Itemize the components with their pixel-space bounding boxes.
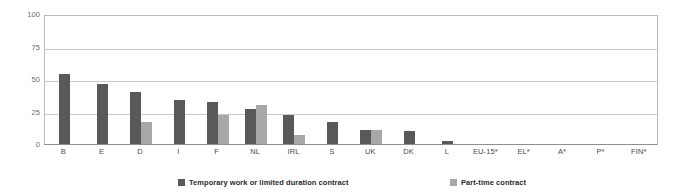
bar — [207, 102, 218, 144]
x-tick-label: FIN* — [631, 147, 646, 157]
chart-legend: Temporary work or limited duration contr… — [0, 178, 684, 192]
x-tick-label: D — [137, 147, 143, 157]
bar-group — [352, 16, 390, 144]
bar-group — [160, 16, 198, 144]
bar-group — [199, 16, 237, 144]
bar — [59, 74, 70, 144]
y-tick-label: 100 — [14, 11, 40, 19]
x-tick-label: EL* — [517, 147, 529, 157]
x-tick-label: S — [329, 147, 334, 157]
x-tick-label: DK — [403, 147, 414, 157]
x-tick-label: F — [214, 147, 219, 157]
y-tick-label: 50 — [14, 76, 40, 84]
bar — [141, 122, 152, 144]
bar-group — [237, 16, 275, 144]
bar — [97, 84, 108, 144]
legend-label: Part-time contract — [461, 178, 526, 187]
bar-group — [390, 16, 428, 144]
bar — [218, 115, 229, 144]
bar-group — [467, 16, 505, 144]
bar-group — [544, 16, 582, 144]
bar — [442, 141, 453, 144]
bar-group — [582, 16, 620, 144]
bar — [360, 130, 371, 144]
legend-entry[interactable]: Part-time contract — [450, 178, 526, 187]
bar-group — [83, 16, 121, 144]
x-tick-label: E — [99, 147, 104, 157]
x-axis: BEDIFNLIRLSUKDKLEU-15*EL*A*P*FIN* — [44, 147, 658, 161]
bar — [371, 130, 382, 144]
legend-swatch-icon — [450, 179, 457, 186]
x-tick-label: EU-15* — [473, 147, 498, 157]
bar — [294, 135, 305, 144]
bar-group — [275, 16, 313, 144]
x-tick-label: A* — [558, 147, 566, 157]
legend-label: Temporary work or limited duration contr… — [189, 178, 349, 187]
y-axis: 0255075100 — [14, 9, 40, 149]
plot-wrapper: 0255075100 BEDIFNLIRLSUKDKLEU-15*EL*A*P*… — [0, 0, 684, 168]
y-tick-label: 75 — [14, 44, 40, 52]
bar-group — [621, 16, 659, 144]
bar — [174, 100, 185, 144]
x-tick-label: IRL — [287, 147, 299, 157]
bar — [283, 115, 294, 144]
legend-entry[interactable]: Temporary work or limited duration contr… — [178, 178, 349, 187]
bar — [245, 109, 256, 144]
y-tick-label: 0 — [14, 141, 40, 149]
bar — [327, 122, 338, 144]
bar-group — [314, 16, 352, 144]
x-tick-label: NL — [250, 147, 260, 157]
legend-swatch-icon — [178, 179, 185, 186]
bar-group — [122, 16, 160, 144]
x-tick-label: I — [177, 147, 179, 157]
bar-group — [429, 16, 467, 144]
bar — [130, 92, 141, 144]
bar-chart: 0255075100 BEDIFNLIRLSUKDKLEU-15*EL*A*P*… — [0, 0, 684, 196]
bar — [256, 105, 267, 144]
x-tick-label: L — [445, 147, 449, 157]
bar — [404, 131, 415, 144]
x-tick-label: B — [61, 147, 66, 157]
bar-group — [506, 16, 544, 144]
x-tick-label: P* — [596, 147, 604, 157]
plot-area — [44, 15, 658, 145]
y-tick-label: 25 — [14, 109, 40, 117]
x-tick-label: UK — [365, 147, 376, 157]
bar-group — [45, 16, 83, 144]
bars-layer — [45, 16, 657, 144]
